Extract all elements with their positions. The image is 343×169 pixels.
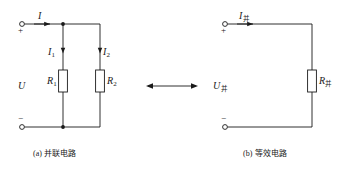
right-plus-sign: + xyxy=(221,26,226,35)
resistor-r2-subscript: 2 xyxy=(113,80,117,88)
branch2-current-label: I2 xyxy=(103,47,110,59)
left-voltage-label: U xyxy=(18,81,25,91)
left-caption-tag: (a) xyxy=(33,149,42,158)
left-bottom-terminal xyxy=(20,125,25,130)
left-caption-text: 并联电路 xyxy=(44,149,76,158)
branch1-current-symbol: I xyxy=(48,46,51,57)
resistor-r1-subscript: 1 xyxy=(53,80,57,88)
right-current-subscript: 并 xyxy=(243,15,250,23)
right-circuit-caption: (b) 等效电路 xyxy=(243,150,287,158)
right-caption-text: 等效电路 xyxy=(255,149,287,158)
right-bottom-terminal xyxy=(223,125,228,130)
left-top-junction-dot xyxy=(61,22,65,26)
branch2-current-subscript: 2 xyxy=(107,51,111,59)
branch1-current-label: I1 xyxy=(48,47,55,59)
left-bottom-junction-dot xyxy=(61,125,65,129)
right-voltage-label: U并 xyxy=(213,81,228,92)
resistor-rp-subscript: 并 xyxy=(325,80,332,88)
right-voltage-subscript: 并 xyxy=(221,85,228,93)
equivalence-arrow-head-right xyxy=(191,83,198,89)
left-circuit-caption: (a) 并联电路 xyxy=(33,150,76,158)
left-total-current-label: I xyxy=(38,11,41,21)
branch2-current-arrow-head xyxy=(98,48,102,54)
resistor-r2-body xyxy=(96,70,105,92)
left-current-arrow-head xyxy=(44,22,50,27)
right-minus-sign: − xyxy=(221,114,226,123)
branch1-current-arrow-head xyxy=(61,48,65,54)
resistor-r1-body xyxy=(59,70,68,92)
branch2-current-symbol: I xyxy=(103,46,106,57)
left-minus-sign: − xyxy=(18,114,23,123)
circuit-comparison-figure: + − I U I1 I2 R1 R2 (a) 并联电路 + − I并 U并 R… xyxy=(0,0,343,169)
equivalence-arrow-head-left xyxy=(146,83,153,89)
left-plus-sign: + xyxy=(18,26,23,35)
equivalence-arrow-group xyxy=(146,83,198,89)
resistor-rp-label: R并 xyxy=(319,76,332,87)
right-current-label: I并 xyxy=(239,11,250,22)
right-current-symbol: I xyxy=(239,10,242,21)
right-voltage-symbol: U xyxy=(213,80,220,91)
right-caption-tag: (b) xyxy=(243,149,252,158)
resistor-rp-body xyxy=(308,70,317,92)
right-circuit-group xyxy=(223,22,317,130)
resistor-r2-label: R2 xyxy=(107,76,117,88)
resistor-r1-label: R1 xyxy=(47,76,57,88)
left-circuit-group xyxy=(20,22,105,130)
branch1-current-subscript: 1 xyxy=(52,51,56,59)
